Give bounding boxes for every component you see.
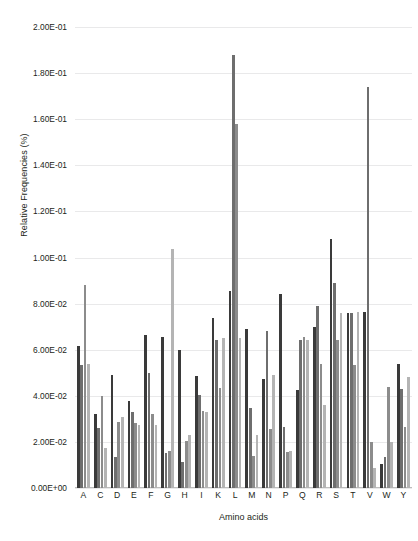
- bar-group: [395, 27, 412, 488]
- x-axis-tick-label: M: [243, 490, 260, 500]
- bar-group: [328, 27, 345, 488]
- bar: [323, 405, 326, 488]
- bar-group: [260, 27, 277, 488]
- bar: [387, 387, 390, 488]
- bar: [114, 457, 117, 488]
- bar-group: [277, 27, 294, 488]
- bar: [181, 462, 184, 489]
- bar: [212, 318, 215, 488]
- x-axis-tick-label: Y: [395, 490, 412, 500]
- bar: [97, 428, 100, 488]
- bar: [384, 457, 387, 488]
- y-axis-tick-label: 2.00E-01: [9, 22, 67, 32]
- bar: [171, 249, 174, 488]
- bar: [320, 364, 323, 488]
- bar: [252, 456, 255, 488]
- bar: [165, 453, 168, 488]
- x-axis-tick-label: N: [260, 490, 277, 500]
- bar: [336, 340, 339, 488]
- bar: [370, 442, 373, 488]
- x-axis-tick-label: V: [361, 490, 378, 500]
- y-axis-tick-label: 0.00E+00: [9, 483, 67, 493]
- bar-group: [126, 27, 143, 488]
- bar-group: [361, 27, 378, 488]
- bar: [205, 412, 208, 488]
- x-axis-tick-label: I: [193, 490, 210, 500]
- bar: [262, 379, 265, 488]
- x-axis-tick-label: A: [75, 490, 92, 500]
- gridline: [75, 488, 412, 489]
- bar: [350, 313, 353, 488]
- x-axis-tick-label: W: [378, 490, 395, 500]
- bar: [117, 422, 120, 488]
- bar: [303, 337, 306, 488]
- bar: [235, 124, 238, 488]
- bar: [148, 373, 151, 488]
- bar: [347, 313, 350, 488]
- bar: [94, 414, 97, 488]
- bar: [138, 425, 141, 488]
- bar-group: [159, 27, 176, 488]
- y-axis-tick-label: 4.00E-02: [9, 391, 67, 401]
- bar: [80, 365, 83, 488]
- bar: [299, 340, 302, 488]
- bar: [134, 423, 137, 488]
- bar: [195, 376, 198, 488]
- bar: [256, 435, 259, 488]
- bar-group: [227, 27, 244, 488]
- bar: [104, 448, 107, 488]
- bar-group: [210, 27, 227, 488]
- x-axis-tick-label: F: [142, 490, 159, 500]
- bar: [373, 468, 376, 488]
- bar: [202, 411, 205, 488]
- bar: [128, 401, 131, 488]
- bar: [333, 283, 336, 488]
- y-axis-tick-label: 1.80E-01: [9, 68, 67, 78]
- bar: [272, 375, 275, 488]
- x-axis-tick-label: R: [311, 490, 328, 500]
- y-axis-tick-label: 1.40E-01: [9, 160, 67, 170]
- x-axis-tick-label: C: [92, 490, 109, 500]
- x-axis-tick-label: G: [159, 490, 176, 500]
- bar: [316, 306, 319, 488]
- bar: [222, 338, 225, 488]
- bar: [229, 291, 232, 488]
- bar-group: [311, 27, 328, 488]
- bar: [185, 441, 188, 488]
- bar: [131, 412, 134, 488]
- bar-group: [243, 27, 260, 488]
- bar: [84, 285, 87, 488]
- bar-group: [176, 27, 193, 488]
- bar: [111, 375, 114, 488]
- x-axis-tick-label: Q: [294, 490, 311, 500]
- bar: [245, 329, 248, 488]
- bar-group: [142, 27, 159, 488]
- bar-groups: [75, 27, 412, 488]
- bar: [390, 442, 393, 488]
- bar: [215, 340, 218, 488]
- bar: [121, 417, 124, 488]
- y-axis-tick-label: 1.20E-01: [9, 206, 67, 216]
- y-axis-tick-label: 6.00E-02: [9, 345, 67, 355]
- bar: [144, 335, 147, 488]
- x-axis-tick-label: H: [176, 490, 193, 500]
- y-axis-tick-label: 1.00E-01: [9, 253, 67, 263]
- x-axis-tick-labels: ACDEFGHIKLMNPQRSTVWY: [75, 490, 412, 500]
- y-axis-title: Relative Frequencies (%): [19, 105, 29, 265]
- bar: [87, 364, 90, 488]
- x-axis-tick-label: P: [277, 490, 294, 500]
- bar: [363, 312, 366, 488]
- x-axis-tick-label: T: [345, 490, 362, 500]
- bar: [266, 331, 269, 488]
- chart-figure: Relative Frequencies (%) 0.00E+002.00E-0…: [0, 0, 418, 541]
- bar: [77, 346, 80, 488]
- bar: [353, 365, 356, 488]
- y-axis-tick-label: 1.60E-01: [9, 114, 67, 124]
- bar: [101, 396, 104, 488]
- bar: [357, 312, 360, 488]
- bar: [330, 239, 333, 488]
- x-axis-tick-label: E: [126, 490, 143, 500]
- bar: [286, 452, 289, 488]
- bar: [198, 395, 201, 488]
- bar: [269, 429, 272, 488]
